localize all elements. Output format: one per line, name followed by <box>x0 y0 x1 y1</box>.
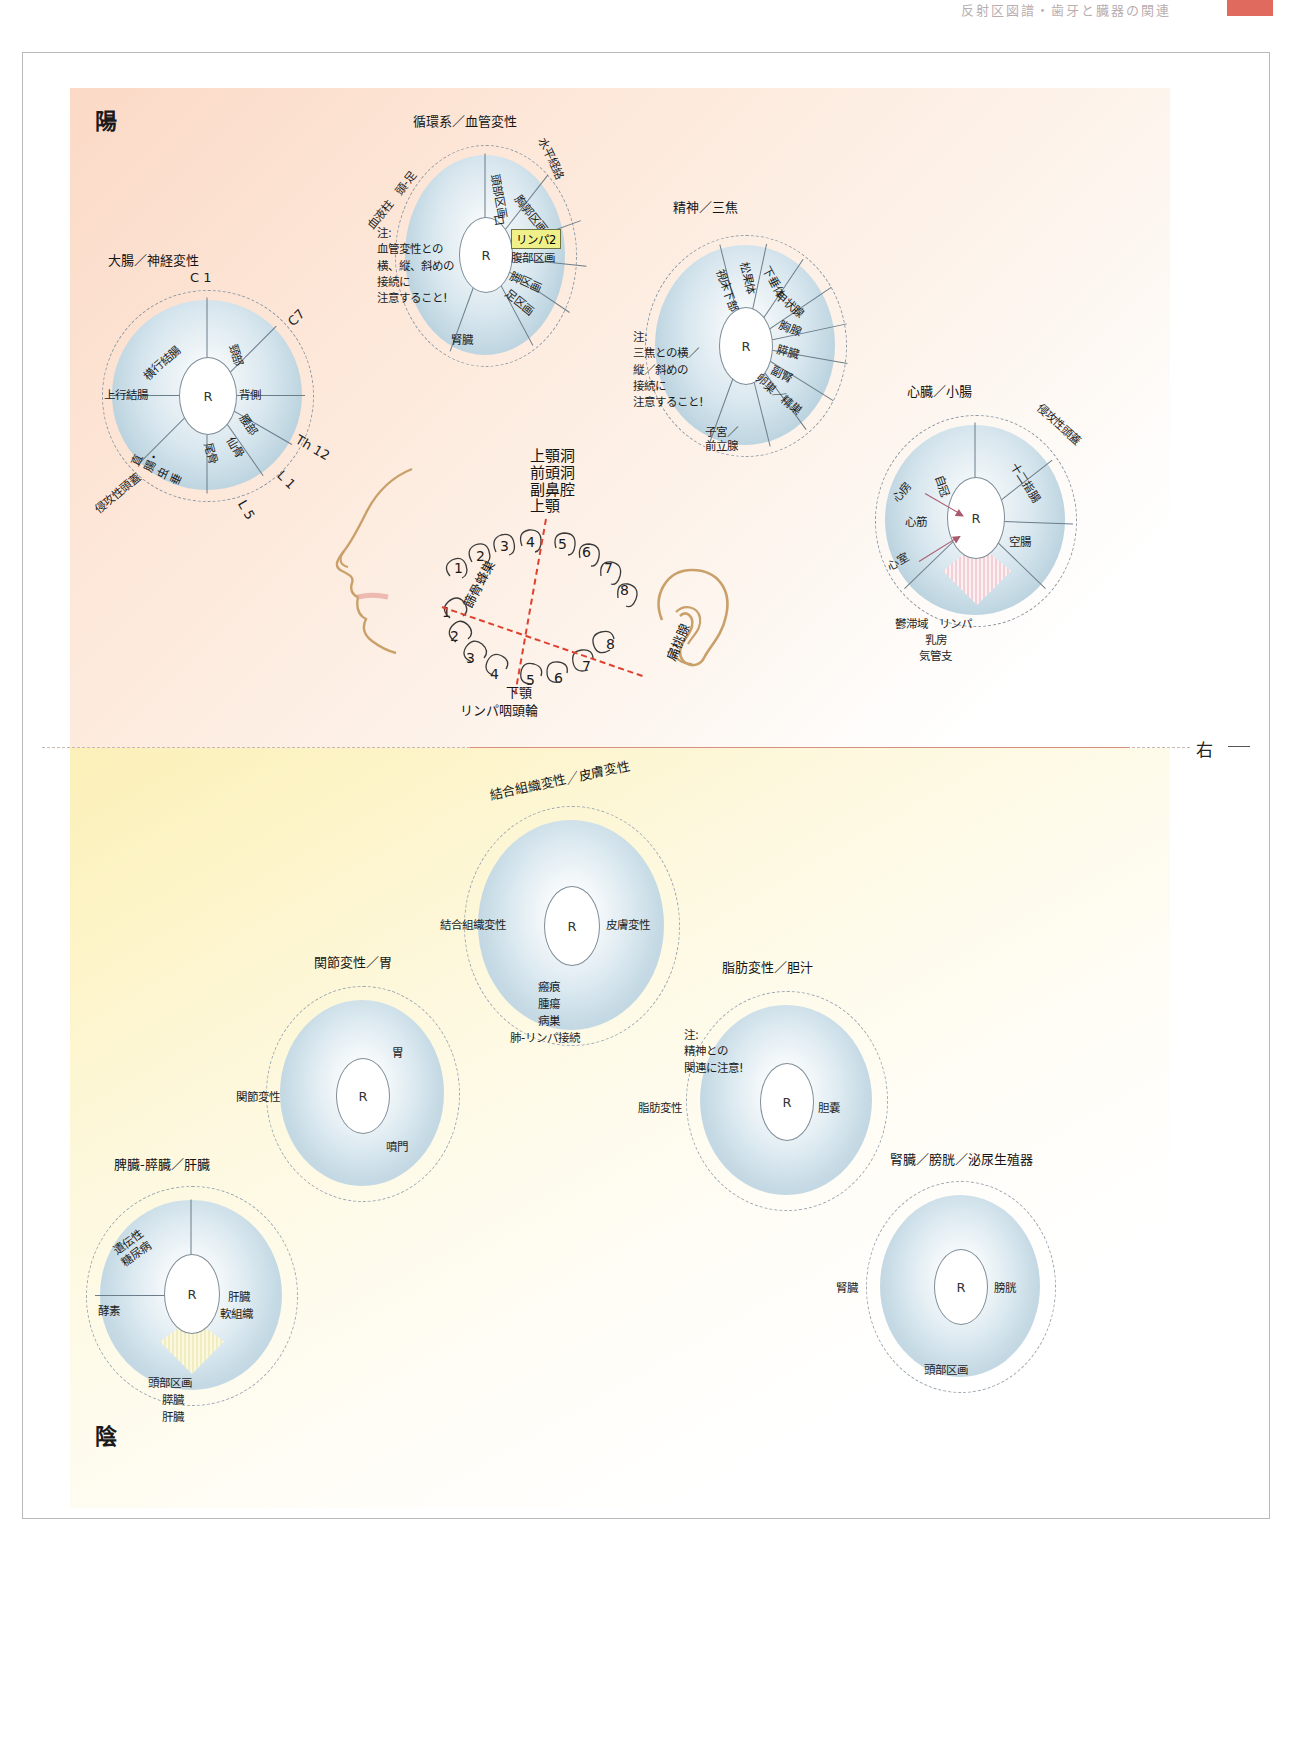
bottom-label: 瘢痕 <box>538 980 560 994</box>
segment-label: 上行結腸 <box>104 388 148 402</box>
wheel-hub: R <box>459 217 513 293</box>
bottom-label: 乳房 <box>925 633 947 647</box>
right-upper-label: 胃 <box>392 1046 403 1060</box>
wheel-title: 脂肪変性／胆汁 <box>722 957 813 976</box>
wheel-hub: R <box>544 886 600 966</box>
highlight-lymph2: リンパ2 <box>511 229 561 249</box>
page-header: 反射区図譜・歯牙と臓器の関連 <box>0 0 1291 26</box>
wheel-title: 精神／三焦 <box>673 197 738 216</box>
wheel-title: 循環系／血管変性 <box>413 111 517 130</box>
wheel-hub: R <box>164 1254 220 1334</box>
bottom-label: 病巣 <box>538 1014 560 1028</box>
bottom-label: 肺-リンパ接続 <box>510 1031 580 1045</box>
right-upper-label: 肝臓 <box>228 1290 250 1304</box>
arrow-label-myocardium: 心筋 <box>905 515 927 529</box>
bottom-label: 気管支 <box>919 649 952 663</box>
bottom-label: 鬱滞域 リンパ <box>895 617 972 631</box>
waldeyer-ring-label: リンパ咽頭輪 <box>460 700 538 719</box>
wheel-title: 大腸／神経変性 <box>108 250 199 269</box>
wheel-title: 脾臓-膵臓／肝臓 <box>114 1154 210 1173</box>
wheel-heart-small-intestine: R 自冠 十二指腸 空腸 心房 心筋 心室 心臓／小腸 侵攻性頭蓋 鬱滞域 リン… <box>885 425 1065 615</box>
right-label: 胆嚢 <box>818 1101 840 1115</box>
segment-label: 腎臓 <box>451 333 473 347</box>
left-label: 関節変性 <box>236 1090 280 1104</box>
right-lower-label: 軟組織 <box>220 1307 253 1321</box>
right-side-dash <box>1228 746 1250 747</box>
right-side-marker: 右 <box>1196 736 1213 761</box>
wheel-kidney-bladder: R 腎臓／膀胱／泌尿生殖器 腎臓 膀胱 頭部区画 <box>880 1195 1040 1377</box>
header-color-tab <box>1227 0 1273 16</box>
wheel-title: 心臓／小腸 <box>907 381 972 400</box>
wheel-large-intestine: R 横行結腸 頸部 背側 腰部 仙骨 尾骨 直腸・虫垂 上行結腸 大腸／神経変性… <box>112 300 302 490</box>
wheel-hub: R <box>947 477 1005 559</box>
sinus-label: 副鼻腔 <box>530 482 575 499</box>
yang-label: 陽 <box>95 103 117 135</box>
wheel-connective-skin: R 結合組織変性／皮膚変性 結合組織変性 皮膚変性 瘢痕 腫瘍 病巣 肺-リンパ… <box>478 820 664 1030</box>
wheel-spleen-pancreas-liver: R 脾臓-膵臓／肝臓 遺伝性 糖尿病 酵素 肝臓 軟組織 頭部区画 膵臓 肝臓 <box>100 1200 282 1390</box>
left-label: 酵素 <box>98 1304 120 1318</box>
bottom-label: 腫瘍 <box>538 997 560 1011</box>
wheel-title: 腎臓／膀胱／泌尿生殖器 <box>890 1149 1033 1168</box>
segment-label-uterus-prostate: 子宮／ 前立腺 <box>705 425 738 454</box>
segment-label: 背側 <box>239 388 261 402</box>
bottom-label: 頭部区画 <box>924 1363 968 1377</box>
wheel-hub: R <box>760 1063 814 1141</box>
wheel-circulatory: R 頭部区画 口 胸郭区画 腹部区画 脚区画 足区画 腎臓 リンパ2 循環系／血… <box>405 155 565 355</box>
diagram-page: 反射区図譜・歯牙と臓器の関連 陽 右 R 横行結腸 頸部 背側 腰部 仙骨 尾骨… <box>0 0 1291 1747</box>
wheel-joint-stomach: R 関節変性／胃 関節変性 胃 噴門 <box>280 1000 444 1186</box>
header-running-text: 反射区図譜・歯牙と臓器の関連 <box>961 0 1171 19</box>
left-label: 腎臓 <box>836 1281 858 1295</box>
right-label: 皮膚変性 <box>606 918 650 932</box>
bottom-label: 頭部区画 <box>148 1376 192 1390</box>
segment-label: 腹部区画 <box>511 251 555 265</box>
bottom-label: 肝臓 <box>162 1410 184 1424</box>
wheel-spirit-triple-burner: R 視床下部 松果体 下垂体 甲状腺 胸腺 膵臓 副腎 卵巣／精巣 精神／三焦 … <box>655 245 835 445</box>
wheel-note: 注: 精神との 関連に注意! <box>684 1027 744 1076</box>
sinus-label: 前頭洞 <box>530 465 575 482</box>
right-lower-label: 噴門 <box>386 1140 408 1154</box>
left-label: 結合組織変性 <box>440 918 506 932</box>
wheel-hub: R <box>934 1249 988 1325</box>
wheel-fat-bile: R 脂肪変性／胆汁 注: 精神との 関連に注意! 脂肪変性 胆嚢 <box>700 1005 872 1195</box>
bottom-label: 膵臓 <box>162 1393 184 1407</box>
right-label: 膀胱 <box>994 1281 1016 1295</box>
dental-chart: 上顎洞 前頭洞 副鼻腔 上顎 篩骨蜂巣 扁桃腺 下顎 リンパ咽頭輪 1 2 3 … <box>400 500 660 700</box>
wheel-title: 関節変性／胃 <box>314 952 392 971</box>
wheel-note: 注: 血管変性との 横、縦、斜めの 接続に 注意すること! <box>377 225 454 307</box>
wheel-hub: R <box>336 1058 390 1134</box>
left-label: 脂肪変性 <box>638 1101 682 1115</box>
segment-label: 空腸 <box>1009 535 1031 549</box>
wheel-note: 注: 三焦との横／ 縦／斜めの 接続に 注意すること! <box>633 329 704 411</box>
yin-label: 陰 <box>95 1418 117 1450</box>
sinus-label: 上顎洞 <box>530 448 575 465</box>
rim-label-c1: C 1 <box>190 270 211 286</box>
wheel-hub: R <box>179 357 237 435</box>
